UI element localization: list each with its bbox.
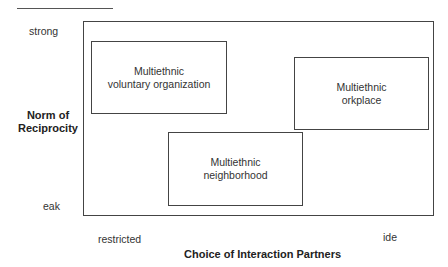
y-axis-low-label: eak bbox=[43, 200, 60, 212]
y-axis-title-line1: Norm of bbox=[10, 109, 86, 122]
top-rule-divider bbox=[17, 8, 113, 9]
box-voluntary-organization-line2: voluntary organization bbox=[108, 78, 211, 91]
x-axis-high-label: ide bbox=[383, 231, 397, 243]
box-workplace-line2: orkplace bbox=[336, 94, 386, 107]
box-neighborhood-line2: neighborhood bbox=[203, 169, 267, 182]
box-workplace: Multiethnic orkplace bbox=[294, 57, 429, 130]
box-neighborhood-line1: Multiethnic bbox=[203, 156, 267, 169]
y-axis-title-line2: Reciprocity bbox=[10, 122, 86, 135]
x-axis-low-label: restricted bbox=[98, 233, 141, 245]
box-voluntary-organization-line1: Multiethnic bbox=[108, 65, 211, 78]
box-neighborhood: Multiethnic neighborhood bbox=[168, 132, 303, 206]
box-workplace-line1: Multiethnic bbox=[336, 81, 386, 94]
y-axis-high-label: strong bbox=[29, 25, 58, 37]
x-axis-title: Choice of Interaction Partners bbox=[184, 248, 341, 261]
y-axis-title: Norm of Reciprocity bbox=[10, 109, 86, 135]
box-voluntary-organization: Multiethnic voluntary organization bbox=[91, 41, 227, 114]
